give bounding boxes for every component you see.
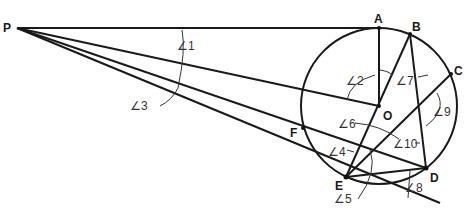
arc-angle-7a: [380, 70, 392, 76]
angle-label-3: ∠3: [130, 99, 148, 113]
chord-ce: [346, 74, 451, 177]
label-d: D: [430, 171, 439, 185]
angle-label-4: ∠4: [328, 145, 346, 159]
label-f: F: [290, 126, 297, 140]
angle-label-5: ∠5: [334, 192, 352, 206]
angle-label-10: ∠10: [393, 137, 418, 151]
angle-label-1: ∠1: [177, 39, 195, 53]
line-pe-tangent: [17, 28, 440, 203]
label-a: A: [374, 12, 383, 26]
angle-label-6: ∠6: [338, 117, 356, 131]
line-pfd: [17, 28, 426, 168]
arc-angle-4-leader: [347, 150, 354, 152]
geometry-diagram: P A B C O D E F ∠1 ∠2 ∠3 ∠4 ∠5 ∠6 ∠7 ∠8 …: [0, 0, 467, 210]
angle-label-7: ∠7: [396, 74, 414, 88]
label-p: P: [3, 21, 11, 35]
point-dots: [301, 26, 453, 180]
angle-label-2: ∠2: [346, 74, 364, 88]
label-b: B: [412, 20, 421, 34]
angle-label-9: ∠9: [433, 105, 451, 119]
line-po: [17, 28, 379, 106]
label-o: O: [383, 109, 392, 123]
label-c: C: [454, 64, 463, 78]
label-e: E: [335, 179, 343, 193]
arc-angle-7b: [418, 75, 428, 77]
angle-label-8: ∠8: [405, 181, 423, 195]
